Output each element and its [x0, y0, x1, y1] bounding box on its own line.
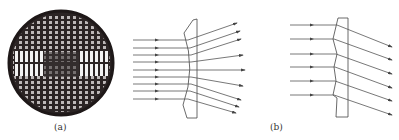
concave-lens-diagram	[133, 19, 245, 118]
wafer-image	[9, 11, 113, 115]
fresnel-lens-diagram	[290, 18, 392, 117]
panel-b-label: (b)	[270, 122, 283, 132]
optics-figure	[0, 0, 399, 140]
panel-a-label: (a)	[54, 122, 66, 132]
